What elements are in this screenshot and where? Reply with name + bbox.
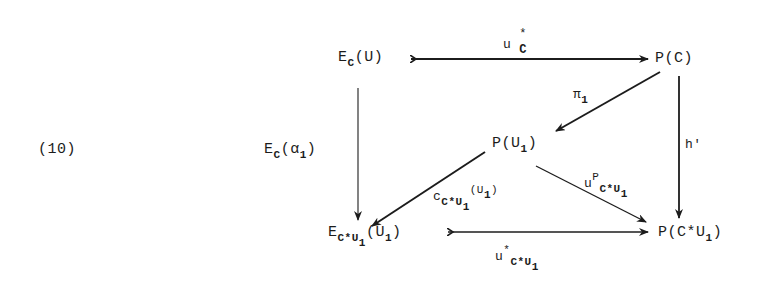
label-top-sup: * xyxy=(519,28,527,40)
label-top-sub: C xyxy=(519,44,527,56)
label-bottom-subsub: 1 xyxy=(532,261,539,273)
node-p-cu1-close: ) xyxy=(713,224,723,241)
node-p-cu1-sub: 1 xyxy=(706,232,713,244)
label-bottom-sub: C*U xyxy=(510,256,531,268)
label-pi1: π1 xyxy=(573,88,588,106)
node-ec-u: EC(U) xyxy=(338,50,383,69)
node-p-c: P(C) xyxy=(655,51,693,66)
label-dl-sub: C*U xyxy=(441,196,462,208)
label-dl-arg-open: (U xyxy=(470,184,484,196)
label-h-prime: h' xyxy=(685,138,702,151)
label-top-arrow: u*C xyxy=(503,38,528,51)
commutative-diagram: (10) EC(U) P(C) P(U1) EC*U1(U1) P(C*U1) … xyxy=(0,0,780,290)
node-ec-u-sub: C xyxy=(348,57,355,69)
label-dr-sup: P xyxy=(592,171,599,183)
node-ecu1-arg-sub: 1 xyxy=(385,232,392,244)
node-p-u1-sub: 1 xyxy=(521,143,528,155)
node-p-u1: P(U1) xyxy=(492,136,537,155)
node-ecu1-subsub: 1 xyxy=(359,237,366,249)
label-dl-arg-sub: 1 xyxy=(484,189,491,201)
label-dl-subsub: 1 xyxy=(463,201,470,213)
label-pi1-sub: 1 xyxy=(581,94,588,106)
label-lv-arg-close: ) xyxy=(307,141,317,158)
label-left-vertical: EC(α1) xyxy=(264,142,316,161)
node-p-cu1: P(C*U1) xyxy=(658,225,722,244)
label-bottom-sup: * xyxy=(503,244,510,256)
label-lv-sub: C xyxy=(274,149,281,161)
label-dl-arg-close: ) xyxy=(491,184,498,196)
label-dr-subsub: 1 xyxy=(621,188,628,200)
label-lv-arg-open: (α xyxy=(281,141,300,158)
equation-number: (10) xyxy=(38,142,76,157)
label-lv-base: E xyxy=(264,141,274,158)
label-top-name: u xyxy=(503,37,511,52)
node-ec-u-base: E xyxy=(338,49,348,66)
label-dr-sub: C*U xyxy=(599,183,620,195)
node-p-u1-close: ) xyxy=(528,135,538,152)
arrow-pi1 xyxy=(556,72,660,131)
label-diag-right: uPC*U1 xyxy=(584,172,628,200)
label-bottom-arrow: u*C*U1 xyxy=(495,245,539,273)
label-diag-left: cC*U1(U1) xyxy=(433,185,498,213)
node-ecu1-sub: C*U xyxy=(338,232,359,244)
node-ecu1-base: E xyxy=(328,224,338,241)
node-ecu1-arg-close: ) xyxy=(392,224,402,241)
label-lv-arg-sub: 1 xyxy=(300,149,307,161)
node-ecu1-u1: EC*U1(U1) xyxy=(328,225,402,249)
node-ecu1-arg-open: (U xyxy=(366,224,385,241)
node-p-cu1-base: P(C*U xyxy=(658,224,706,241)
node-p-u1-base: P(U xyxy=(492,135,521,152)
node-ec-u-arg: (U) xyxy=(355,49,384,66)
